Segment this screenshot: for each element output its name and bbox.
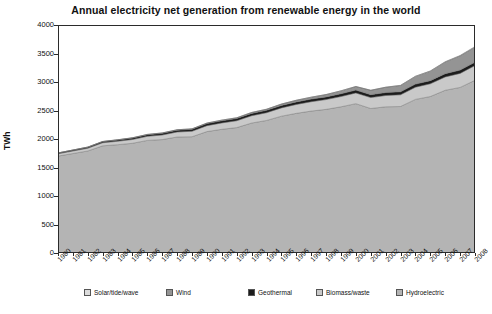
legend-label: Biomass/waste — [326, 289, 370, 296]
legend-label: Geothermal — [258, 289, 292, 296]
y-axis-label: 500 — [24, 221, 54, 229]
legend-swatch-icon — [316, 289, 323, 296]
legend-item: Hydroelectric — [396, 289, 444, 296]
legend-item: Wind — [166, 289, 191, 296]
legend-label: Hydroelectric — [406, 289, 444, 296]
legend-swatch-icon — [166, 289, 173, 296]
y-axis-label: 4000 — [24, 21, 54, 29]
y-axis: 05001000150020002500300035004000 — [20, 25, 54, 253]
plot-area — [58, 25, 475, 253]
y-axis-label: 3500 — [24, 50, 54, 58]
legend-item: Biomass/waste — [316, 289, 370, 296]
y-axis-label: 0 — [24, 249, 54, 257]
y-axis-label: 1000 — [24, 192, 54, 200]
y-axis-label: 1500 — [24, 164, 54, 172]
legend-swatch-icon — [84, 289, 91, 296]
x-axis-label: 2008 — [473, 247, 489, 263]
legend-swatch-icon — [248, 289, 255, 296]
y-axis-label: 2000 — [24, 135, 54, 143]
y-axis-label: 3000 — [24, 78, 54, 86]
legend-label: Wind — [176, 289, 191, 296]
plot-frame — [58, 25, 475, 253]
legend-item: Geothermal — [248, 289, 292, 296]
x-axis: 1980198119821983198419851986198719881989… — [58, 253, 475, 293]
chart-root: Annual electricity net generation from r… — [0, 0, 492, 314]
y-axis-title: TWh — [2, 132, 12, 150]
y-axis-label: 2500 — [24, 107, 54, 115]
legend-swatch-icon — [396, 289, 403, 296]
chart-legend: Solar/tide/waveWindGeothermalBiomass/was… — [58, 289, 475, 303]
chart-title: Annual electricity net generation from r… — [0, 4, 492, 16]
legend-item: Solar/tide/wave — [84, 289, 138, 296]
legend-label: Solar/tide/wave — [94, 289, 138, 296]
